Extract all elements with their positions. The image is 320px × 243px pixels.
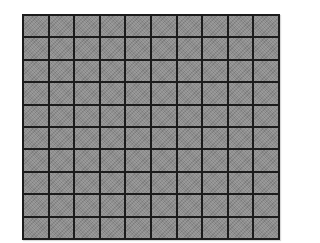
grid-cell xyxy=(50,218,74,238)
grid-cell xyxy=(126,128,150,148)
grid-cell xyxy=(75,106,99,126)
grid-cell xyxy=(50,128,74,148)
grid-cell xyxy=(50,83,74,103)
grid-cell xyxy=(229,83,253,103)
grid-cell xyxy=(229,38,253,58)
grid-cell xyxy=(24,38,48,58)
grid-cell xyxy=(126,173,150,193)
grid-cell xyxy=(75,38,99,58)
grid-cell xyxy=(229,173,253,193)
grid-cell xyxy=(75,218,99,238)
grid-cell xyxy=(126,38,150,58)
grid-cell xyxy=(254,61,278,81)
grid-cell xyxy=(178,128,202,148)
grid-cell xyxy=(75,195,99,215)
grid-cell xyxy=(126,195,150,215)
grid-cell xyxy=(203,16,227,36)
grid-cell xyxy=(203,38,227,58)
grid-cell xyxy=(50,106,74,126)
grid-cell xyxy=(101,173,125,193)
grid-cell xyxy=(152,128,176,148)
grid-cell xyxy=(152,195,176,215)
grid-cell xyxy=(203,128,227,148)
grid-cell xyxy=(24,83,48,103)
grid-cell xyxy=(152,218,176,238)
grid-cell xyxy=(101,83,125,103)
grid-cell xyxy=(152,173,176,193)
grid-cell xyxy=(126,106,150,126)
grid-cell xyxy=(75,150,99,170)
grid-cell xyxy=(50,173,74,193)
grid-cell xyxy=(101,61,125,81)
grid-cell xyxy=(24,150,48,170)
grid-cell xyxy=(50,195,74,215)
grid-cell xyxy=(75,83,99,103)
grid-cell xyxy=(101,218,125,238)
grid-cell xyxy=(254,83,278,103)
grid-cell xyxy=(24,173,48,193)
grid-cell xyxy=(126,83,150,103)
grid-cell xyxy=(152,150,176,170)
grid-cell xyxy=(203,173,227,193)
grid-cell xyxy=(203,195,227,215)
grid-cell xyxy=(50,150,74,170)
grid-cell xyxy=(101,106,125,126)
grid-cell xyxy=(126,16,150,36)
grid-cell xyxy=(254,150,278,170)
grid-cell xyxy=(229,16,253,36)
grid-cell xyxy=(254,173,278,193)
grid-cell xyxy=(126,218,150,238)
grid-cell xyxy=(178,150,202,170)
grid-cell xyxy=(75,128,99,148)
grid-cell xyxy=(203,106,227,126)
grid-cell xyxy=(254,218,278,238)
grid-cell xyxy=(178,218,202,238)
grid-cell xyxy=(24,195,48,215)
grid-cell xyxy=(178,173,202,193)
grid-cell xyxy=(229,195,253,215)
grid-cell xyxy=(50,16,74,36)
grid-cell xyxy=(24,106,48,126)
grid-cell xyxy=(254,38,278,58)
grid-cell xyxy=(178,106,202,126)
grid-cell xyxy=(203,218,227,238)
grid-cell xyxy=(254,195,278,215)
grid-cell xyxy=(75,61,99,81)
grid-cell xyxy=(178,195,202,215)
grid-cell xyxy=(178,38,202,58)
grid-cell xyxy=(178,61,202,81)
grid-cell xyxy=(178,83,202,103)
grid-cell xyxy=(126,61,150,81)
grid-cell xyxy=(203,150,227,170)
grid-cell xyxy=(229,218,253,238)
grid-cell xyxy=(75,16,99,36)
gray-grid xyxy=(22,14,280,240)
grid-cell xyxy=(24,218,48,238)
grid-cell xyxy=(152,106,176,126)
grid-cell xyxy=(101,195,125,215)
grid-cell xyxy=(101,150,125,170)
grid-cell xyxy=(152,83,176,103)
grid-cell xyxy=(50,61,74,81)
grid-cell xyxy=(254,106,278,126)
grid-cell xyxy=(24,128,48,148)
grid-cell xyxy=(229,61,253,81)
grid-cell xyxy=(152,16,176,36)
grid-cell xyxy=(229,150,253,170)
grid-cell xyxy=(24,61,48,81)
grid-cell xyxy=(254,16,278,36)
grid-cell xyxy=(203,61,227,81)
grid-cell xyxy=(229,128,253,148)
grid-cell xyxy=(203,83,227,103)
grid-cell xyxy=(152,61,176,81)
grid-cell xyxy=(101,128,125,148)
grid-cell xyxy=(75,173,99,193)
grid-cell xyxy=(152,38,176,58)
grid-cell xyxy=(254,128,278,148)
grid-cell xyxy=(101,16,125,36)
grid-cell xyxy=(178,16,202,36)
grid-cell xyxy=(50,38,74,58)
grid-cell xyxy=(101,38,125,58)
grid-cell xyxy=(126,150,150,170)
grid-cell xyxy=(229,106,253,126)
